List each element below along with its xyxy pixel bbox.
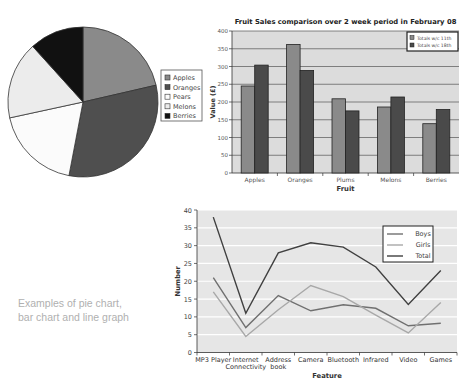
bar-ytick-label: 300 bbox=[218, 64, 229, 70]
bar-yaxis-label: Value (£) bbox=[209, 85, 217, 118]
line-ytick-label: 0 bbox=[188, 349, 192, 357]
bar-plums-18th bbox=[346, 111, 360, 173]
bar-ytick-label: 250 bbox=[218, 81, 229, 87]
bar-xtick-label: Oranges bbox=[287, 176, 312, 184]
line-ytick-label: 10 bbox=[184, 313, 192, 321]
bar-legend-label: Totals w/c 18th bbox=[416, 43, 452, 48]
bar-xtick-label: Melons bbox=[380, 176, 401, 183]
bar-berries-18th bbox=[436, 110, 450, 174]
caption-line-2: bar chart and line graph bbox=[18, 310, 178, 324]
line-yaxis-label: Number bbox=[174, 265, 182, 296]
bar-chart: 050100150200250300350400ApplesOrangesPlu… bbox=[209, 18, 459, 193]
pie-chart bbox=[8, 27, 158, 177]
caption-text: Examples of pie chart, bar chart and lin… bbox=[18, 296, 178, 324]
line-ytick-label: 15 bbox=[184, 296, 192, 304]
pie-legend-label: Berries bbox=[173, 112, 196, 120]
bar-apples-18th bbox=[255, 65, 269, 173]
bar-xtick-label: Berries bbox=[426, 176, 447, 183]
legend-swatch-icon bbox=[410, 36, 414, 40]
legend-swatch-icon bbox=[165, 94, 170, 99]
pie-legend-label: Oranges bbox=[173, 84, 201, 92]
bar-apples-11th bbox=[241, 86, 255, 173]
bar-oranges-18th bbox=[300, 70, 314, 173]
bar-ytick-label: 150 bbox=[218, 117, 229, 123]
bar-ytick-label: 350 bbox=[218, 46, 229, 52]
line-legend-label: Boys bbox=[415, 230, 431, 238]
line-ytick-label: 5 bbox=[188, 331, 192, 339]
bar-legend-label: Totals w/c 11th bbox=[416, 36, 452, 41]
pie-legend-label: Melons bbox=[173, 103, 197, 111]
line-xtick-label: InternetConnectivity bbox=[225, 356, 266, 372]
pie-legend: ApplesOrangesPearsMelonsBerries bbox=[161, 70, 202, 121]
bar-ytick-label: 50 bbox=[221, 152, 228, 158]
pie-legend-label: Pears bbox=[173, 93, 191, 101]
line-ytick-label: 40 bbox=[184, 207, 192, 215]
line-xtick-label: Games bbox=[429, 356, 452, 364]
bar-ytick-label: 400 bbox=[218, 28, 229, 34]
bar-xaxis-label: Fruit bbox=[337, 185, 356, 193]
bar-melons-18th bbox=[391, 97, 405, 173]
line-ytick-label: 20 bbox=[184, 278, 192, 286]
bar-ytick-label: 200 bbox=[218, 99, 229, 105]
legend-swatch-icon bbox=[165, 85, 170, 90]
line-xtick-label: Infrared bbox=[363, 356, 389, 364]
line-xaxis-label: Feature bbox=[312, 372, 342, 380]
line-chart: 0510152025303540MP3 PlayerInternetConnec… bbox=[174, 207, 457, 381]
bar-berries-11th bbox=[423, 124, 437, 173]
line-legend-label: Girls bbox=[416, 241, 431, 249]
line-ytick-label: 35 bbox=[184, 224, 192, 232]
chart-canvas: ApplesOrangesPearsMelonsBerries 05010015… bbox=[0, 0, 475, 386]
bar-xtick-label: Apples bbox=[245, 176, 265, 184]
bar-ytick-label: 100 bbox=[218, 135, 229, 141]
caption-line-1: Examples of pie chart, bbox=[18, 296, 178, 310]
bar-ytick-label: 0 bbox=[225, 170, 229, 176]
bar-plums-11th bbox=[332, 99, 346, 173]
bar-xtick-label: Plums bbox=[336, 176, 354, 183]
pie-legend-label: Apples bbox=[173, 74, 196, 82]
bar-chart-title: Fruit Sales comparison over 2 week perio… bbox=[235, 18, 457, 26]
line-ytick-label: 25 bbox=[184, 260, 192, 268]
line-xtick-label: Bluetooth bbox=[327, 356, 359, 364]
legend-swatch-icon bbox=[165, 104, 170, 109]
line-xtick-label: Video bbox=[399, 356, 417, 364]
legend-swatch-icon bbox=[165, 75, 170, 80]
line-xtick-label: Addressbook bbox=[265, 356, 291, 372]
legend-swatch-icon bbox=[410, 43, 414, 47]
line-legend-label: Total bbox=[414, 252, 430, 260]
bar-melons-11th bbox=[377, 107, 391, 173]
legend-swatch-icon bbox=[165, 113, 170, 118]
line-xtick-label: Camera bbox=[298, 356, 324, 364]
line-ytick-label: 30 bbox=[184, 242, 192, 250]
bar-oranges-11th bbox=[287, 45, 301, 174]
